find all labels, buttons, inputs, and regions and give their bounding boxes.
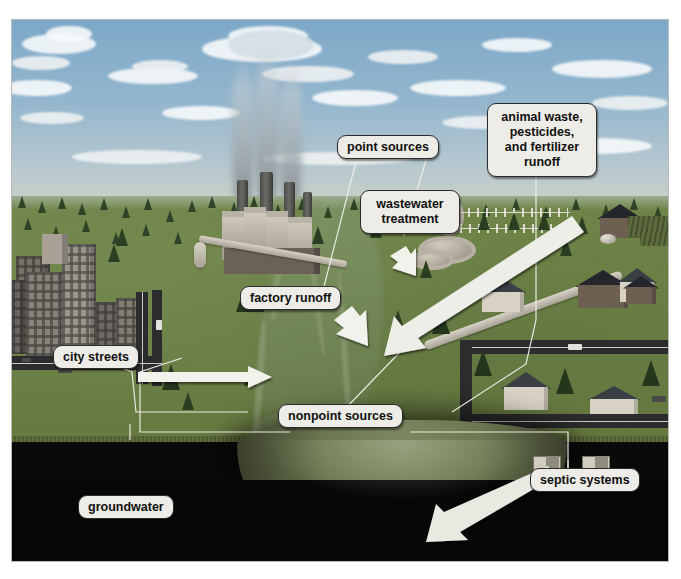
smoke-top-cloud bbox=[228, 30, 314, 60]
tree bbox=[350, 198, 358, 210]
cloud bbox=[592, 96, 668, 110]
label-point-sources[interactable]: point sources bbox=[337, 135, 439, 159]
street-line bbox=[460, 347, 668, 348]
figure-root: point sources animal waste, pesticides, … bbox=[0, 0, 681, 579]
city-building bbox=[26, 272, 66, 356]
tree bbox=[432, 308, 450, 334]
city-building bbox=[12, 280, 26, 354]
tree bbox=[560, 238, 572, 256]
clarifier-basin bbox=[410, 250, 454, 270]
tree bbox=[162, 364, 180, 390]
tree bbox=[188, 200, 196, 212]
suburban-house bbox=[504, 372, 548, 410]
tree bbox=[18, 196, 26, 208]
cloud bbox=[162, 106, 240, 120]
tree bbox=[572, 198, 580, 210]
cloud bbox=[482, 38, 552, 52]
aquifer-sheen bbox=[262, 440, 542, 500]
tree bbox=[122, 206, 130, 218]
tree bbox=[420, 260, 432, 278]
suburban-house bbox=[626, 276, 656, 304]
tree bbox=[474, 350, 492, 376]
label-city-streets[interactable]: city streets bbox=[53, 345, 139, 369]
suburban-house bbox=[482, 278, 524, 312]
city-building bbox=[42, 234, 68, 264]
tree bbox=[182, 392, 194, 410]
tree bbox=[144, 198, 152, 210]
cloud bbox=[368, 50, 438, 64]
street-line bbox=[460, 421, 668, 422]
tree bbox=[312, 226, 324, 244]
tree bbox=[556, 368, 574, 394]
tree bbox=[244, 368, 256, 386]
city-street bbox=[152, 290, 162, 386]
cloud bbox=[552, 60, 652, 78]
tree bbox=[478, 212, 490, 230]
label-animal-waste-runoff[interactable]: animal waste, pesticides, and fertilizer… bbox=[487, 103, 597, 177]
street-line bbox=[142, 292, 143, 384]
tree bbox=[100, 198, 108, 210]
suburban-street bbox=[460, 340, 472, 428]
car bbox=[568, 344, 582, 350]
car bbox=[22, 358, 31, 362]
tree bbox=[174, 232, 182, 244]
label-nonpoint-sources[interactable]: nonpoint sources bbox=[278, 404, 403, 428]
cloud bbox=[20, 112, 84, 124]
grain-silo bbox=[600, 234, 616, 244]
illustration-canvas: point sources animal waste, pesticides, … bbox=[12, 20, 668, 561]
tree bbox=[82, 220, 90, 232]
car bbox=[156, 320, 162, 330]
cloud bbox=[72, 150, 202, 164]
factory-berm bbox=[194, 242, 206, 268]
tree bbox=[24, 218, 32, 230]
tree bbox=[142, 224, 150, 236]
tree bbox=[38, 201, 46, 213]
crop-field bbox=[640, 232, 668, 246]
cloud bbox=[312, 90, 398, 106]
tree bbox=[392, 310, 404, 328]
tree bbox=[58, 197, 66, 209]
car bbox=[652, 396, 666, 402]
cloud bbox=[410, 80, 506, 96]
tree bbox=[108, 244, 120, 262]
label-septic-systems[interactable]: septic systems bbox=[530, 468, 640, 492]
cloud bbox=[132, 60, 188, 73]
cloud bbox=[46, 26, 92, 42]
label-wastewater-treatment[interactable]: wastewater treatment bbox=[360, 190, 460, 234]
tree bbox=[116, 228, 128, 246]
tree bbox=[642, 360, 660, 386]
tree bbox=[78, 203, 86, 215]
tree bbox=[324, 206, 332, 218]
tree bbox=[508, 212, 520, 230]
label-factory-runoff[interactable]: factory runoff bbox=[240, 286, 341, 310]
cloud bbox=[12, 56, 70, 70]
tree bbox=[208, 196, 216, 208]
label-groundwater[interactable]: groundwater bbox=[78, 495, 174, 519]
tree bbox=[576, 216, 588, 234]
tree bbox=[538, 212, 550, 230]
tree bbox=[166, 210, 174, 222]
